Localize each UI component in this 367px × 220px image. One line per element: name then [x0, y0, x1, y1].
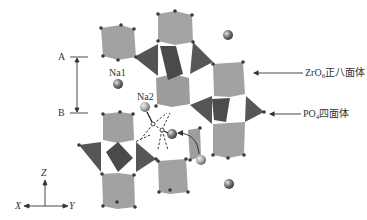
- coordinate-axes: [24, 180, 68, 208]
- octahedron-top-center: [158, 11, 193, 45]
- tetrahedron-2: [160, 46, 183, 80]
- po4-legend-label: PO4四面体: [303, 109, 349, 121]
- tetrahedron-3: [190, 42, 213, 74]
- octahedron-lower-left-top: [103, 112, 134, 143]
- tetrahedron-4: [190, 96, 212, 124]
- tetrahedron-6: [245, 96, 264, 122]
- po4-formula: PO: [303, 108, 316, 119]
- zro6-legend-label: ZrO6正八面体: [305, 68, 365, 80]
- ab-distance-bracket: [70, 57, 88, 113]
- tetrahedron-9: [136, 142, 156, 172]
- zro6-description: 正八面体: [325, 67, 365, 78]
- octahedron-right-lower: [213, 122, 245, 158]
- tetrahedron-5: [212, 98, 230, 122]
- tetrahedron-8: [106, 142, 133, 172]
- octahedron-mid-right-fragment: [188, 128, 201, 160]
- na2-to-node-line: [147, 112, 152, 122]
- na1-label: Na1: [109, 68, 126, 78]
- na-sphere-migrated: [196, 155, 206, 165]
- octahedron-lower-left-bottom: [102, 173, 135, 209]
- zro6-formula: ZrO: [305, 67, 322, 78]
- marker-a-label: A: [58, 52, 65, 62]
- octahedron-right: [213, 62, 245, 97]
- na2-label: Na2: [137, 92, 154, 102]
- crystal-structure-diagram: A B Na1 Na2 ZrO6正八面体 PO4四面体 Z X Y: [0, 0, 367, 220]
- na-sphere-top: [223, 30, 233, 40]
- na-sphere-center: [167, 129, 177, 139]
- na-sphere-bottom: [224, 179, 234, 189]
- axis-z-label: Z: [41, 168, 47, 178]
- octahedron-bottom-center: [158, 159, 188, 194]
- na1-sphere: [113, 79, 123, 89]
- node-to-na-line: [164, 131, 168, 133]
- marker-b-label: B: [58, 108, 65, 118]
- axis-y-label: Y: [69, 201, 75, 211]
- na2-sphere: [140, 102, 150, 112]
- octahedron-top-left: [101, 25, 136, 60]
- po4-description: 四面体: [319, 108, 349, 119]
- axis-x-label: X: [15, 201, 21, 211]
- tetrahedron-7: [79, 142, 101, 172]
